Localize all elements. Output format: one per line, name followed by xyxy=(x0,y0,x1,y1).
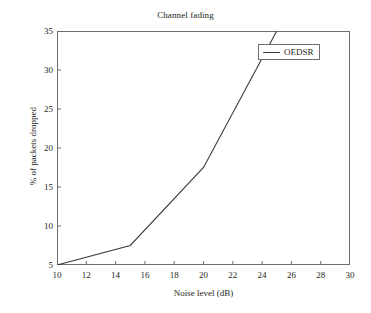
y-axis-label: % of packets dropped xyxy=(28,66,38,226)
x-tick-label: 10 xyxy=(42,271,72,280)
x-tick-label: 16 xyxy=(130,271,160,280)
x-tick-label: 30 xyxy=(335,271,365,280)
x-tick-label: 28 xyxy=(306,271,336,280)
x-axis-label: Noise level (dB) xyxy=(57,288,350,298)
legend-line-swatch-oedsr xyxy=(263,52,280,53)
x-tick-label: 22 xyxy=(218,271,248,280)
x-tick-label: 14 xyxy=(101,271,131,280)
legend-label-oedsr: OEDSR xyxy=(284,47,314,57)
x-tick-label: 18 xyxy=(159,271,189,280)
x-tick-label: 24 xyxy=(247,271,277,280)
chart-figure: Channel fading 5101520253035 10121416182… xyxy=(0,0,371,313)
x-tick-label: 12 xyxy=(71,271,101,280)
x-tick-label: 26 xyxy=(276,271,306,280)
x-tick-label: 20 xyxy=(189,271,219,280)
chart-legend: OEDSR xyxy=(258,44,320,60)
